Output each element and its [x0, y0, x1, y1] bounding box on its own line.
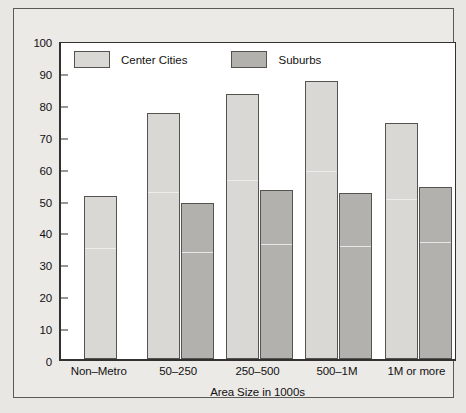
legend-label-center-cities: Center Cities [121, 54, 187, 66]
figure-container: 0102030405060708090100 Center Cities Sub… [0, 0, 466, 413]
x-axis-title: Area Size in 1000s [59, 386, 456, 398]
y-axis-tick-mark-40 [61, 234, 68, 235]
y-axis-tick-mark-70 [61, 138, 68, 139]
y-axis-tick-label-70: 70 [15, 133, 61, 145]
bar-center-cities-group-1 [147, 113, 180, 359]
y-axis-tick-mark-50 [61, 202, 68, 203]
legend-item-suburbs: Suburbs [231, 51, 321, 68]
bar-suburbs-group-3 [339, 193, 372, 359]
bar-suburbs-group-1 [181, 203, 214, 359]
y-axis-tick-label-50: 50 [15, 197, 61, 209]
scan-streak [306, 171, 337, 172]
y-axis-tick-mark-60 [61, 170, 68, 171]
scan-streak [85, 248, 116, 249]
x-axis-tick-label-4: 1M or more [387, 365, 445, 377]
x-axis-tick-label-0: Non–Metro [71, 365, 127, 377]
center-cities-swatch [74, 51, 110, 68]
y-axis-tick-mark-30 [61, 266, 68, 267]
y-axis-tick-label-90: 90 [15, 69, 61, 81]
plot-area: 0102030405060708090100 [59, 42, 456, 361]
y-axis-tick-label-40: 40 [15, 228, 61, 240]
y-axis-tick-mark-20 [61, 298, 68, 299]
bar-center-cities-group-0 [84, 196, 117, 359]
y-axis-tick-mark-90 [61, 74, 68, 75]
bar-suburbs-group-2 [260, 190, 293, 359]
y-axis-tick-label-100: 100 [15, 37, 61, 49]
scan-streak [261, 244, 292, 245]
legend-item-center-cities: Center Cities [74, 51, 187, 68]
bar-suburbs-group-4 [419, 187, 452, 359]
bar-center-cities-group-2 [226, 94, 259, 359]
y-axis-tick-label-10: 10 [15, 324, 61, 336]
y-axis-tick-label-20: 20 [15, 292, 61, 304]
scan-streak [148, 192, 179, 193]
scan-streak [340, 246, 371, 247]
y-axis-tick-mark-80 [61, 106, 68, 107]
y-axis-tick-mark-10 [61, 330, 68, 331]
caption-cutoff [0, 405, 466, 413]
scan-streak [386, 199, 417, 200]
scan-streak [420, 242, 451, 243]
legend-label-suburbs: Suburbs [278, 54, 321, 66]
chart-legend: Center Cities Suburbs [74, 51, 321, 68]
y-axis-tick-label-0: 0 [15, 356, 61, 368]
suburbs-swatch [231, 51, 267, 68]
x-axis-tick-label-3: 500–1M [316, 365, 357, 377]
y-axis-tick-label-60: 60 [15, 165, 61, 177]
scan-streak [227, 180, 258, 181]
bar-center-cities-group-4 [385, 123, 418, 359]
y-axis-tick-label-80: 80 [15, 101, 61, 113]
bar-center-cities-group-3 [305, 81, 338, 359]
y-axis-tick-label-30: 30 [15, 260, 61, 272]
scan-streak [182, 252, 213, 253]
figure-frame: 0102030405060708090100 Center Cities Sub… [13, 8, 454, 398]
x-axis-tick-label-2: 250–500 [235, 365, 279, 377]
x-axis-tick-label-1: 50–250 [159, 365, 197, 377]
